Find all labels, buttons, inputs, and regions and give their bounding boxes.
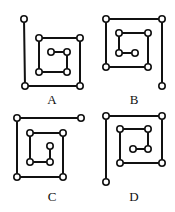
node-circle-icon	[117, 126, 123, 132]
spiral-figures-canvas	[0, 0, 175, 212]
node-circle-icon	[130, 146, 136, 152]
node-circle-icon	[64, 49, 70, 55]
node-circle-icon	[27, 130, 33, 136]
option-label-b: B	[130, 93, 139, 106]
node-circle-icon	[78, 115, 84, 121]
option-label-d: D	[129, 190, 138, 203]
node-circle-icon	[77, 35, 83, 41]
node-circle-icon	[117, 160, 123, 166]
node-circle-icon	[36, 69, 42, 75]
node-circle-icon	[159, 83, 165, 89]
node-circle-icon	[145, 146, 151, 152]
node-circle-icon	[14, 174, 20, 180]
node-circle-icon	[27, 159, 33, 165]
node-circle-icon	[116, 30, 122, 36]
option-label-a: A	[47, 93, 56, 106]
node-circle-icon	[145, 126, 151, 132]
node-circle-icon	[36, 35, 42, 41]
option-label-c: C	[48, 190, 57, 203]
figure-c	[14, 115, 84, 180]
node-circle-icon	[47, 143, 53, 149]
node-circle-icon	[103, 64, 109, 70]
node-circle-icon	[60, 174, 66, 180]
node-circle-icon	[60, 130, 66, 136]
node-circle-icon	[159, 113, 165, 119]
node-circle-icon	[22, 83, 28, 89]
node-circle-icon	[103, 179, 109, 185]
node-circle-icon	[14, 115, 20, 121]
node-circle-icon	[48, 49, 54, 55]
node-circle-icon	[47, 159, 53, 165]
node-circle-icon	[116, 50, 122, 56]
node-circle-icon	[103, 16, 109, 22]
node-circle-icon	[103, 113, 109, 119]
figure-b	[103, 16, 165, 89]
figure-a	[21, 16, 83, 89]
node-circle-icon	[21, 16, 27, 22]
node-circle-icon	[77, 83, 83, 89]
node-circle-icon	[145, 30, 151, 36]
node-circle-icon	[132, 50, 138, 56]
node-circle-icon	[159, 16, 165, 22]
node-circle-icon	[145, 64, 151, 70]
figure-d	[103, 113, 165, 185]
node-circle-icon	[159, 160, 165, 166]
node-circle-icon	[64, 69, 70, 75]
